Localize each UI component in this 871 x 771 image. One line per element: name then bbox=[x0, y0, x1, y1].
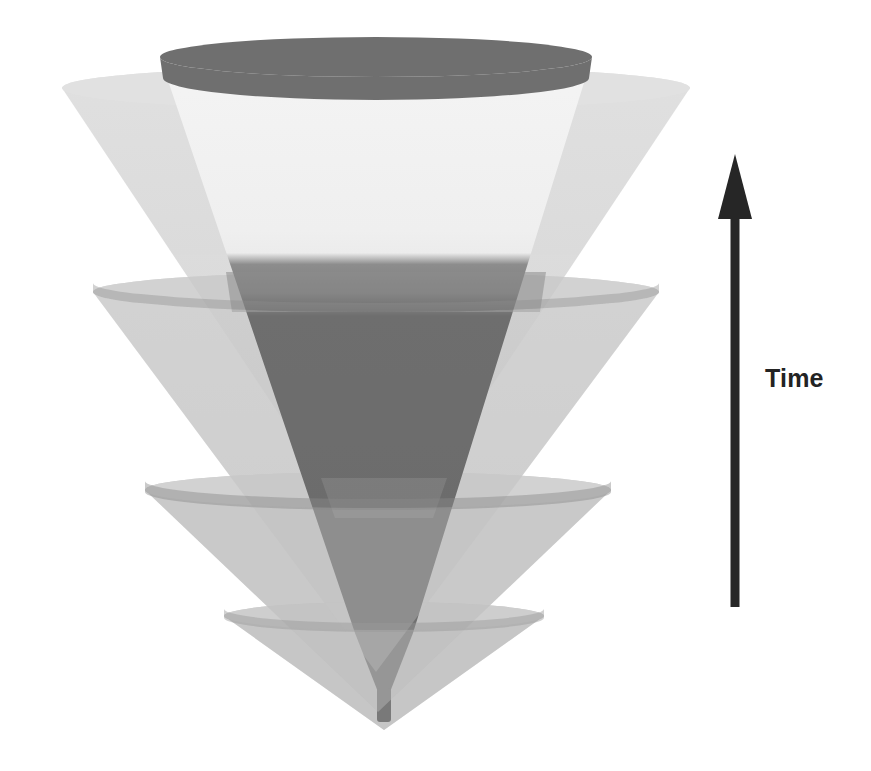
cone-front-overlays bbox=[93, 292, 659, 730]
arrow-group bbox=[718, 154, 752, 607]
arrow-shaft bbox=[731, 212, 740, 607]
time-axis-label: Time bbox=[765, 366, 824, 391]
arrow-head-icon bbox=[718, 154, 752, 219]
inner-cone-top-rim bbox=[160, 37, 592, 77]
cone-4-front-veil bbox=[224, 616, 544, 730]
light-cone-figure: Time bbox=[0, 0, 871, 771]
